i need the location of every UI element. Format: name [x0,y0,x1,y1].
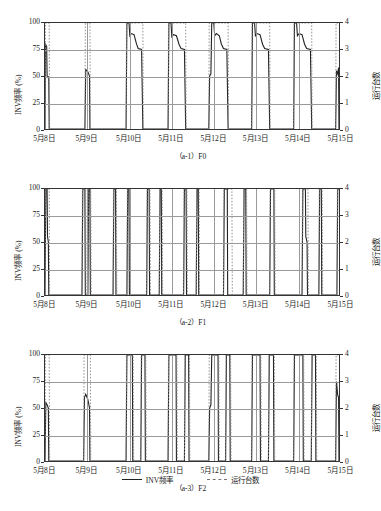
x-axis-tick-label: 5月12日 [193,134,233,143]
y-axis-right-tick-mark [340,408,343,409]
plot-area-a1 [44,22,340,130]
gridline-vertical [130,189,131,295]
series-canvas-a1 [45,23,339,129]
y-axis-right-tick-label: 0 [345,458,359,466]
y-axis-left-tick-label: 0 [18,458,40,466]
gridline-vertical [256,189,257,295]
gridline-horizontal [45,50,339,51]
x-axis-tick-label: 5月12日 [193,300,233,309]
y-axis-left-tick-mark [41,49,44,50]
gridline-horizontal [45,436,339,437]
x-axis-tick-label: 5月13日 [235,300,275,309]
y-axis-left-tick-label: 25 [18,265,40,273]
y-axis-right-tick-mark [340,103,343,104]
y-axis-left-tick-mark [41,269,44,270]
gridline-vertical [299,23,300,129]
y-axis-left-title-a1: INV频率 (%) [12,75,23,115]
y-axis-right-title-a1: 运行台数 [370,72,381,100]
y-axis-left-tick-mark [41,435,44,436]
gridline-vertical [87,189,88,295]
y-axis-left-title-a3: INV频率 (%) [12,407,23,447]
gridline-vertical [172,355,173,461]
subplot-caption-a2: （a-2）F1 [0,316,381,327]
y-axis-left-tick-mark [41,408,44,409]
y-axis-left-tick-label: 50 [18,72,40,80]
y-axis-right-tick-mark [340,354,343,355]
y-axis-left-tick-label: 25 [18,431,40,439]
y-axis-right-tick-mark [340,381,343,382]
y-axis-left-tick-label: 100 [18,184,40,192]
y-axis-right-tick-mark [340,269,343,270]
legend-entry-inv-frequency: INV频率 [122,474,173,485]
y-axis-right-tick-mark [340,49,343,50]
x-axis-tick-label: 5月15日 [320,300,360,309]
y-axis-right-tick-label: 4 [345,350,359,358]
y-axis-right-tick-mark [340,76,343,77]
y-axis-left-tick-label: 50 [18,238,40,246]
series-line-inv-frequency [45,189,339,295]
y-axis-right-tick-label: 4 [345,184,359,192]
figure-root: INV频率 (%) 运行台数 （a-1）F0 1007550250432105月… [0,0,381,511]
gridline-vertical [172,23,173,129]
y-axis-left-tick-mark [41,188,44,189]
y-axis-right-tick-label: 2 [345,238,359,246]
gridline-vertical [214,23,215,129]
gridline-horizontal [45,216,339,217]
y-axis-left-title-a2: INV频率 (%) [12,241,23,281]
gridline-horizontal [45,243,339,244]
y-axis-right-title-a3: 运行台数 [370,404,381,432]
gridline-vertical [214,355,215,461]
gridline-vertical [130,23,131,129]
gridline-vertical [214,189,215,295]
y-axis-right-tick-mark [340,296,343,297]
plot-area-a2 [44,188,340,296]
y-axis-right-tick-mark [340,242,343,243]
y-axis-right-tick-label: 1 [345,265,359,273]
gridline-vertical [130,355,131,461]
x-axis-tick-label: 5月10日 [109,300,149,309]
y-axis-left-tick-mark [41,381,44,382]
y-axis-right-tick-mark [340,22,343,23]
y-axis-right-tick-label: 3 [345,377,359,385]
y-axis-right-tick-label: 2 [345,404,359,412]
y-axis-left-tick-mark [41,22,44,23]
y-axis-left-tick-mark [41,296,44,297]
gridline-horizontal [45,104,339,105]
legend-entry-unit-count: 运行台数 [207,474,259,485]
gridline-vertical [256,355,257,461]
x-axis-tick-label: 5月9日 [66,134,106,143]
legend-label-inv-frequency: INV频率 [146,474,173,485]
y-axis-left-tick-mark [41,130,44,131]
dashed-line-icon [207,479,227,480]
gridline-vertical [87,23,88,129]
y-axis-right-tick-mark [340,435,343,436]
y-axis-left-tick-label: 100 [18,18,40,26]
y-axis-right-tick-mark [340,188,343,189]
gridline-vertical [299,189,300,295]
plot-area-a3 [44,354,340,462]
y-axis-right-tick-label: 0 [345,126,359,134]
y-axis-left-tick-label: 0 [18,126,40,134]
y-axis-left-tick-label: 100 [18,350,40,358]
gridline-vertical [256,23,257,129]
x-axis-tick-label: 5月14日 [278,134,318,143]
y-axis-right-tick-label: 2 [345,72,359,80]
y-axis-right-tick-mark [340,462,343,463]
gridline-vertical [299,355,300,461]
gridline-vertical [172,189,173,295]
y-axis-left-tick-mark [41,354,44,355]
x-axis-tick-label: 5月8日 [24,134,64,143]
legend-label-unit-count: 运行台数 [231,474,259,485]
series-canvas-a3 [45,355,339,461]
y-axis-right-tick-label: 1 [345,99,359,107]
series-line-inv-frequency [45,355,339,461]
y-axis-right-tick-label: 1 [345,431,359,439]
x-axis-tick-label: 5月15日 [320,134,360,143]
x-axis-tick-label: 5月9日 [66,300,106,309]
y-axis-right-tick-mark [340,215,343,216]
gridline-vertical [87,355,88,461]
solid-line-icon [122,479,142,480]
gridline-horizontal [45,382,339,383]
x-axis-tick-label: 5月11日 [151,134,191,143]
gridline-horizontal [45,409,339,410]
